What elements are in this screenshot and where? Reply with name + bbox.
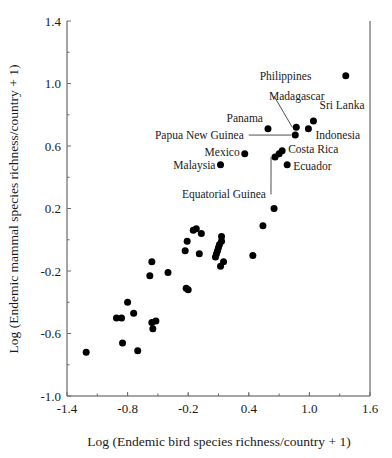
data-point xyxy=(146,272,153,279)
data-point xyxy=(217,263,224,270)
data-point xyxy=(130,310,137,317)
data-point-labeled xyxy=(293,124,300,131)
data-point xyxy=(148,258,155,265)
data-point xyxy=(165,269,172,276)
y-tick-label: 0.2 xyxy=(45,201,61,216)
data-point-labeled xyxy=(342,72,349,79)
point-label-indonesia: Indonesia xyxy=(315,129,360,141)
y-tick-label: 1.0 xyxy=(45,76,61,91)
point-label-malaysia: Malaysia xyxy=(173,159,215,172)
x-tick-label: -0.8 xyxy=(117,401,138,416)
x-tick-label: 1.0 xyxy=(301,401,317,416)
x-tick-label: 1.6 xyxy=(362,401,379,416)
axes xyxy=(67,21,370,396)
data-point xyxy=(185,286,192,293)
data-point xyxy=(152,318,159,325)
data-point xyxy=(149,325,156,332)
point-label-sri-lanka: Sri Lanka xyxy=(320,99,365,111)
data-points xyxy=(83,72,350,356)
label-leader-lines xyxy=(249,96,293,194)
data-point xyxy=(212,253,219,260)
data-point xyxy=(271,205,278,212)
point-label-equatorial-guinea: Equatorial Guinea xyxy=(182,188,266,201)
point-label-madagascar: Madagascar xyxy=(269,90,325,103)
x-tick-label: -0.2 xyxy=(178,401,199,416)
data-point-labeled xyxy=(284,161,291,168)
data-point xyxy=(182,247,189,254)
data-point xyxy=(83,349,90,356)
data-point-labeled xyxy=(305,125,312,132)
data-point xyxy=(196,250,203,257)
data-point xyxy=(218,233,225,240)
x-tick-label: 0.4 xyxy=(241,401,258,416)
plot-frame xyxy=(67,21,370,396)
data-point xyxy=(134,347,141,354)
data-point-labeled xyxy=(279,147,286,154)
point-label-papua-new-guinea: Papua New Guinea xyxy=(155,129,244,142)
data-point xyxy=(249,252,256,259)
data-point xyxy=(193,225,200,232)
x-axis-title: Log (Endemic bird species richness/count… xyxy=(87,434,350,449)
y-axis-title: Log (Endemic mammal species richness/cou… xyxy=(6,65,21,354)
y-tick-label: -0.6 xyxy=(40,326,61,341)
data-point-labels: PhilippinesMadagascarSri LankaPanamaIndo… xyxy=(155,70,365,202)
data-point-labeled xyxy=(292,132,299,139)
point-label-philippines: Philippines xyxy=(260,70,312,83)
data-point-labeled xyxy=(241,150,248,157)
data-point xyxy=(124,299,131,306)
scatter-plot-figure: -1.4-0.8-0.20.41.01.6 1.41.00.60.2-0.2-0… xyxy=(0,0,392,458)
tick-marks xyxy=(67,21,370,396)
data-point xyxy=(184,238,191,245)
x-axis-tick-labels: -1.4-0.8-0.20.41.01.6 xyxy=(57,401,379,416)
data-point-labeled xyxy=(264,125,271,132)
point-label-panama: Panama xyxy=(227,112,263,124)
data-point-labeled xyxy=(217,161,224,168)
data-point xyxy=(119,339,126,346)
point-label-ecuador: Ecuador xyxy=(293,160,331,172)
y-tick-label: -1.0 xyxy=(40,389,61,404)
data-point-labeled xyxy=(272,153,279,160)
point-label-mexico: Mexico xyxy=(205,146,240,158)
y-tick-label: 1.4 xyxy=(45,14,62,29)
data-point xyxy=(259,222,266,229)
point-label-costa-rica: Costa Rica xyxy=(288,143,338,155)
chart-canvas: -1.4-0.8-0.20.41.01.6 1.41.00.60.2-0.2-0… xyxy=(0,0,392,458)
y-tick-label: -0.2 xyxy=(40,264,61,279)
y-tick-label: 0.6 xyxy=(45,139,62,154)
data-point-labeled xyxy=(310,118,317,125)
y-axis-tick-labels: 1.41.00.60.2-0.2-0.6-1.0 xyxy=(40,14,61,404)
data-point xyxy=(113,314,120,321)
